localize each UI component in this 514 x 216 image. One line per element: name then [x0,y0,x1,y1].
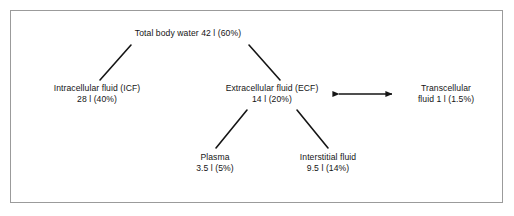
node-extracellular-fluid-line2: 14 l (20%) [226,94,319,105]
node-intracellular-fluid: Intracellular fluid (ICF) 28 l (40%) [54,83,141,105]
node-plasma-line2: 3.5 l (5%) [196,163,234,174]
node-total-body-water-line1: Total body water 42 l (60%) [135,28,241,39]
node-plasma-line1: Plasma [196,152,234,163]
node-transcellular-fluid-line1: Transcellular [418,83,474,94]
node-extracellular-fluid: Extracellular fluid (ECF) 14 l (20%) [226,83,319,105]
figure-screenshot: Total body water 42 l (60%) Intracellula… [0,0,514,216]
node-extracellular-fluid-line1: Extracellular fluid (ECF) [226,83,319,94]
node-intracellular-fluid-line2: 28 l (40%) [54,94,141,105]
node-interstitial-fluid: Interstitial fluid 9.5 l (14%) [300,152,356,174]
node-transcellular-fluid-line2: fluid 1 l (1.5%) [418,94,474,105]
node-interstitial-fluid-line2: 9.5 l (14%) [300,163,356,174]
node-interstitial-fluid-line1: Interstitial fluid [300,152,356,163]
figure-frame [10,10,503,203]
node-total-body-water: Total body water 42 l (60%) [135,28,241,39]
node-intracellular-fluid-line1: Intracellular fluid (ICF) [54,83,141,94]
node-plasma: Plasma 3.5 l (5%) [196,152,234,174]
node-transcellular-fluid: Transcellular fluid 1 l (1.5%) [418,83,474,105]
